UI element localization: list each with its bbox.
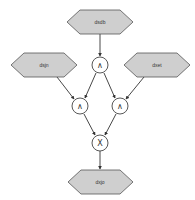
node-dsjn[interactable]: dsjn [11, 53, 77, 77]
node-dxjo[interactable]: dxjo [68, 170, 133, 194]
edge-and-top-to-and-left [85, 73, 96, 98]
node-and-top[interactable]: ∧ [92, 57, 108, 73]
node-label-dxjo: dxjo [95, 179, 104, 185]
node-label-dsdb: dsdb [95, 19, 106, 25]
node-label-dxet: dxet [152, 62, 162, 68]
node-label-dsjn: dsjn [39, 62, 48, 68]
node-dxet[interactable]: dxet [124, 53, 190, 77]
operator-label: ∧ [77, 102, 83, 111]
operator-label: ∧ [97, 61, 103, 70]
edge-dxet-to-and-right [126, 77, 144, 99]
node-dsdb[interactable]: dsdb [67, 10, 133, 34]
edge-dsjn-to-and-left [57, 77, 74, 99]
operator-label: ∧ [117, 102, 123, 111]
edge-and-top-to-and-right [104, 73, 115, 98]
node-and-right[interactable]: ∧ [112, 98, 128, 114]
node-xor-bottom[interactable]: X [92, 135, 108, 151]
node-and-left[interactable]: ∧ [72, 98, 88, 114]
diagram-canvas: dsdb dsjn dxet dxjo ∧ ∧ ∧ X [0, 0, 195, 200]
edge-and-left-to-xor [84, 114, 95, 135]
operator-label: X [97, 139, 103, 148]
edge-and-right-to-xor [105, 114, 116, 135]
